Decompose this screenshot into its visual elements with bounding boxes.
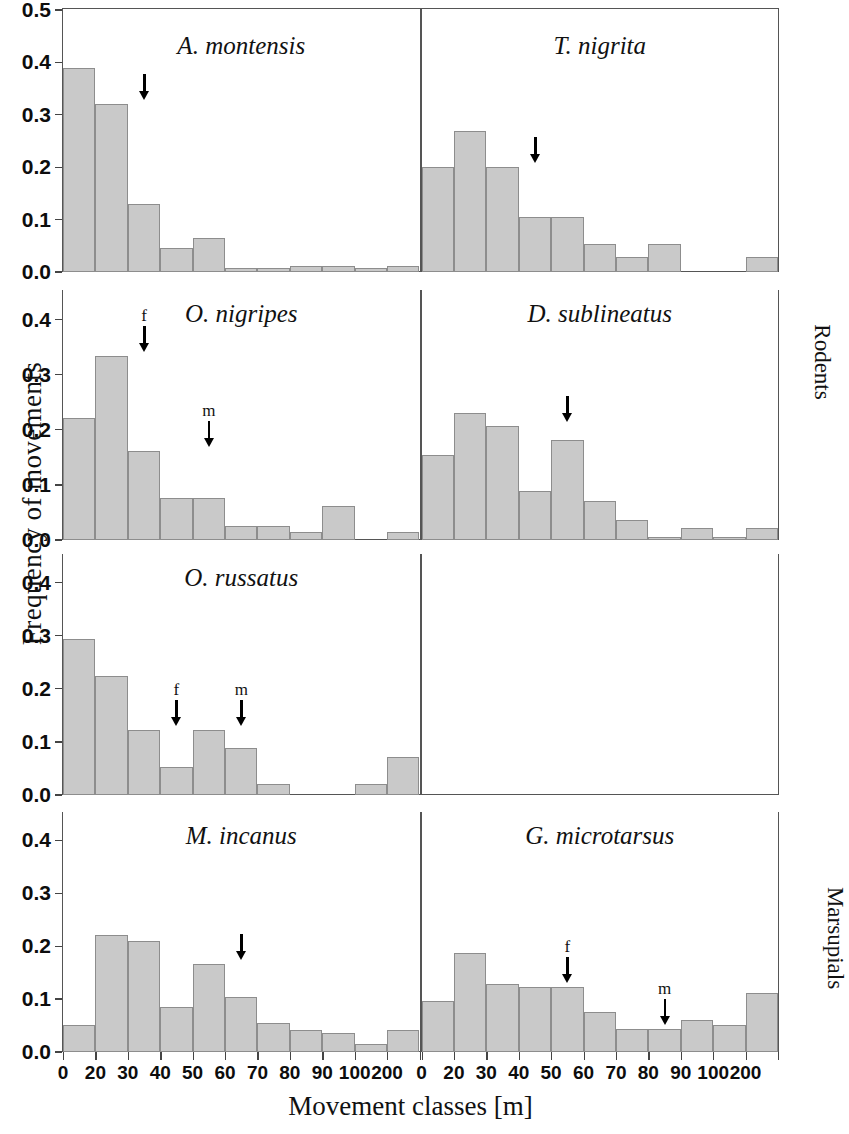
x-tick [160, 1052, 161, 1060]
y-axis-title: Frequency of movements [17, 284, 48, 724]
panel-empty-panel [421, 554, 780, 795]
bar [584, 244, 616, 272]
x-tick [95, 1052, 96, 1060]
bar [486, 426, 518, 540]
x-tick-label: 0 [58, 1062, 69, 1084]
bar [422, 1001, 454, 1052]
bar [648, 1029, 680, 1052]
y-tick [55, 741, 62, 742]
bar [128, 204, 160, 272]
arrow-label-m: m [202, 401, 215, 421]
y-tick [55, 582, 62, 583]
x-tick-label: 50 [541, 1062, 562, 1084]
arrow-head [562, 974, 572, 983]
x-tick [746, 1052, 747, 1060]
y-tick-label: 0.1 [22, 730, 51, 754]
bar [746, 257, 778, 272]
bar [355, 784, 387, 795]
bar [454, 131, 486, 272]
arrow-label-f: f [564, 937, 570, 957]
y-tick-label: 0.0 [22, 783, 51, 807]
bar [616, 257, 648, 272]
bar [160, 767, 192, 795]
y-tick-label: 0.3 [22, 363, 51, 387]
x-tick [681, 1052, 682, 1060]
arrow-shaft [143, 326, 146, 343]
bar [355, 268, 387, 272]
x-tick-label: 0 [416, 1062, 427, 1084]
x-tick-label: 70 [247, 1062, 268, 1084]
bar [355, 1044, 387, 1052]
bars-container [62, 290, 421, 540]
y-tick-label: 0.2 [22, 155, 51, 179]
x-tick [63, 1052, 64, 1060]
group-label-marsupials: Marsupials [784, 925, 820, 951]
bar [422, 167, 454, 272]
y-tick-label: 0.4 [22, 828, 51, 852]
bar [160, 1007, 192, 1052]
arrow-head [204, 438, 214, 447]
bar [387, 266, 419, 272]
bar [225, 526, 257, 540]
y-tick [55, 62, 62, 63]
x-tick-label: 80 [638, 1062, 659, 1084]
y-tick [55, 114, 62, 115]
bar [193, 730, 225, 795]
group-label-marsupials-text: Marsupials [822, 887, 848, 989]
bar [486, 167, 518, 272]
y-tick [55, 840, 62, 841]
bar [160, 248, 192, 272]
arrow-shaft [566, 396, 569, 413]
bar [128, 941, 160, 1052]
arrow-shaft [208, 421, 211, 438]
bar [95, 935, 127, 1052]
y-tick-label: 0.3 [22, 881, 51, 905]
bar [584, 501, 616, 540]
panel-o-nigripes: O. nigripesfm0.00.10.20.30.4 [62, 290, 421, 540]
bar [454, 413, 486, 540]
arrow-label-m: m [658, 979, 671, 999]
arrow-shaft [240, 700, 243, 717]
mean-distance-arrow-f: f [169, 700, 183, 726]
panel-t-nigrita: T. nigrita [421, 8, 780, 272]
bar [422, 455, 454, 540]
y-tick-label: 0.2 [22, 677, 51, 701]
bar [95, 104, 127, 272]
y-tick-label: 0.2 [22, 934, 51, 958]
arrow-head [236, 717, 246, 726]
y-tick [55, 998, 62, 999]
x-tick [519, 1052, 520, 1060]
bars-container [421, 812, 780, 1052]
mean-distance-arrow [528, 137, 542, 163]
bars-container [62, 812, 421, 1052]
bar [746, 528, 778, 540]
bar [257, 1023, 289, 1052]
bar [746, 993, 778, 1052]
x-tick [551, 1052, 552, 1060]
bar [322, 1033, 354, 1052]
bar [290, 1030, 322, 1052]
arrow-head [171, 717, 181, 726]
y-tick-label: 0.4 [22, 571, 51, 595]
y-tick [55, 484, 62, 485]
x-tick-label: 100 [339, 1062, 371, 1084]
bar [551, 217, 583, 272]
bar [225, 997, 257, 1052]
x-tick-label: 80 [279, 1062, 300, 1084]
panel-d-sublineatus: D. sublineatus [421, 290, 780, 540]
x-tick-label: 40 [508, 1062, 529, 1084]
y-tick [55, 9, 62, 10]
bar [95, 676, 127, 796]
x-tick [454, 1052, 455, 1060]
x-tick-label: 40 [150, 1062, 171, 1084]
panel-o-russatus: O. russatusfm0.00.10.20.30.4 [62, 554, 421, 795]
x-tick [778, 1052, 779, 1060]
bar [225, 268, 257, 272]
x-tick [355, 1052, 356, 1060]
bar [257, 526, 289, 540]
bar [713, 1025, 745, 1053]
mean-distance-arrow-f: f [560, 957, 574, 983]
x-tick-label: 100 [697, 1062, 729, 1084]
bar [193, 498, 225, 540]
